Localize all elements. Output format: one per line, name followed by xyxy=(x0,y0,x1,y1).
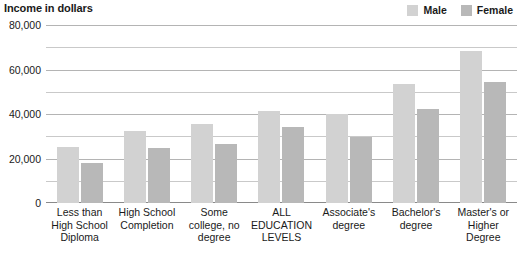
bar-female[interactable] xyxy=(282,127,304,203)
legend-item-female[interactable]: Female xyxy=(461,4,513,16)
x-axis-category-label: Somecollege, nodegree xyxy=(181,206,248,244)
bar-male[interactable] xyxy=(57,147,79,203)
bar-group xyxy=(248,25,315,203)
bar-group xyxy=(113,25,180,203)
bar-group xyxy=(382,25,449,203)
x-axis-category-label: Bachelor'sdegree xyxy=(382,206,449,244)
legend-swatch-female xyxy=(461,5,472,16)
y-axis-tick-label: 40,000 xyxy=(9,108,41,120)
x-axis-category-label: ALLEDUCATIONLEVELS xyxy=(248,206,315,244)
chart-legend: Male Female xyxy=(407,4,513,16)
x-axis-category-label: Less thanHigh SchoolDiploma xyxy=(46,206,113,244)
bar-male[interactable] xyxy=(124,131,146,203)
bar-group xyxy=(450,25,517,203)
bar-female[interactable] xyxy=(417,109,439,203)
legend-swatch-male xyxy=(407,5,418,16)
y-axis-tick-label: 20,000 xyxy=(9,153,41,165)
legend-label-male: Male xyxy=(423,4,446,16)
x-axis-category-label: Master's orHigher Degree xyxy=(450,206,517,244)
bar-male[interactable] xyxy=(460,51,482,203)
plot-area xyxy=(46,25,517,203)
bar-group xyxy=(46,25,113,203)
bar-group xyxy=(315,25,382,203)
bar-female[interactable] xyxy=(484,82,506,203)
legend-label-female: Female xyxy=(477,4,513,16)
bar-male[interactable] xyxy=(191,124,213,203)
bar-male[interactable] xyxy=(258,111,280,203)
legend-item-male[interactable]: Male xyxy=(407,4,446,16)
income-by-education-bar-chart: Income in dollars Male Female 80,00060,0… xyxy=(0,0,521,260)
bar-female[interactable] xyxy=(215,144,237,203)
x-axis-category-label: Associate'sdegree xyxy=(315,206,382,244)
y-axis-tick-label: 80,000 xyxy=(9,19,41,31)
bar-female[interactable] xyxy=(81,163,103,203)
bar-female[interactable] xyxy=(148,148,170,203)
x-axis-labels: Less thanHigh SchoolDiplomaHigh SchoolCo… xyxy=(46,206,517,244)
chart-title: Income in dollars xyxy=(4,2,93,14)
y-axis-tick-label: 60,000 xyxy=(9,64,41,76)
bar-group xyxy=(181,25,248,203)
bar-male[interactable] xyxy=(393,84,415,203)
bar-groups xyxy=(46,25,517,203)
bar-male[interactable] xyxy=(326,114,348,203)
x-axis-category-label: High SchoolCompletion xyxy=(113,206,180,244)
bar-female[interactable] xyxy=(350,137,372,203)
y-axis-labels: 80,00060,00040,00020,0000 xyxy=(0,25,44,203)
y-axis-tick-label: 0 xyxy=(35,197,41,209)
